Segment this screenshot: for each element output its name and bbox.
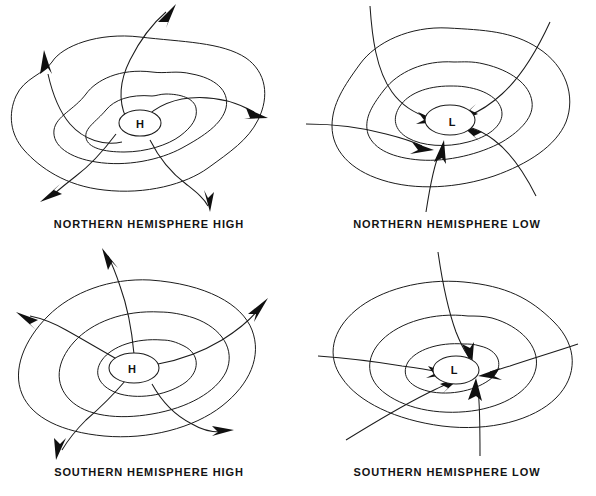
panel-southern-hemisphere-low: L SOUTHERN HEMISPHERE LOW [298,248,596,496]
streamline-from-east [490,344,578,372]
pressure-circulation-figure: H NORTHERN HEMISPHERE HIGH [0,0,596,496]
diagram-northern-hemisphere-low: L [298,0,596,215]
streamline-from-north [438,252,468,356]
isobar-outer [333,281,572,427]
arrowhead-inflow-e [478,368,502,380]
panel-label-northern-hemisphere-high: NORTHERN HEMISPHERE HIGH [0,218,298,230]
streamline-from-west [318,356,438,372]
pressure-center-symbol: L [449,116,456,128]
arrowhead-south [54,438,66,460]
streamline-from-north [370,6,430,118]
arrowhead-inflow-s [434,140,446,164]
panel-southern-hemisphere-high: H SOUTHERN HEMISPHERE HIGH [0,248,298,496]
diagram-northern-hemisphere-high: H [0,0,298,215]
arrowhead-north [158,4,176,28]
panel-label-northern-hemisphere-low: NORTHERN HEMISPHERE LOW [298,218,596,230]
pressure-center-symbol: H [136,118,144,130]
streamline-north-up [108,256,134,354]
panel-northern-hemisphere-low: L NORTHERN HEMISPHERE LOW [298,0,596,248]
streamline-northwest [30,316,122,362]
diagram-southern-hemisphere-high: H [0,248,298,463]
panel-label-southern-hemisphere-low: SOUTHERN HEMISPHERE LOW [298,466,596,478]
streamline-northeast [158,310,258,364]
arrowhead-east [244,108,268,119]
arrowhead-southwest [40,184,62,202]
streamline-west-up [48,74,122,143]
streamline-south-down [62,380,126,450]
arrowhead-northwest [16,312,38,330]
streamline-from-south [426,152,440,212]
panel-label-southern-hemisphere-high: SOUTHERN HEMISPHERE HIGH [0,466,298,478]
arrowhead-south [204,190,214,212]
arrowhead-northwest [40,50,52,74]
streamline-from-northeast [468,22,550,116]
diagram-southern-hemisphere-low: L [298,248,596,463]
arrowhead-north [102,248,118,270]
arrowhead-southeast [212,426,234,436]
pressure-center-symbol: L [451,364,458,376]
streamline-north-up [121,12,166,118]
panel-northern-hemisphere-high: H NORTHERN HEMISPHERE HIGH [0,0,298,248]
pressure-center-symbol: H [128,363,136,375]
streamline-from-south [478,390,480,456]
streamline-from-west [306,124,422,146]
